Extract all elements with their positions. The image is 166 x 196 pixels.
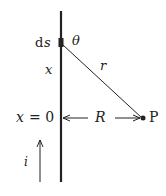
label-origin-x: x [16,109,24,125]
label-R: R [94,109,106,125]
label-theta: θ [72,33,80,48]
label-i: i [24,155,28,169]
label-ds-s: s [44,35,51,50]
r-line [63,45,142,118]
biot-savart-diagram: d s θ r x x = 0 R P i [0,0,166,196]
label-ds-d: d [35,35,43,50]
ds-element [59,38,64,47]
label-r: r [100,58,107,73]
label-x: x [45,62,53,77]
point-p-dot [141,116,146,121]
label-P: P [149,109,158,125]
label-origin-eq: = 0 [29,109,54,125]
